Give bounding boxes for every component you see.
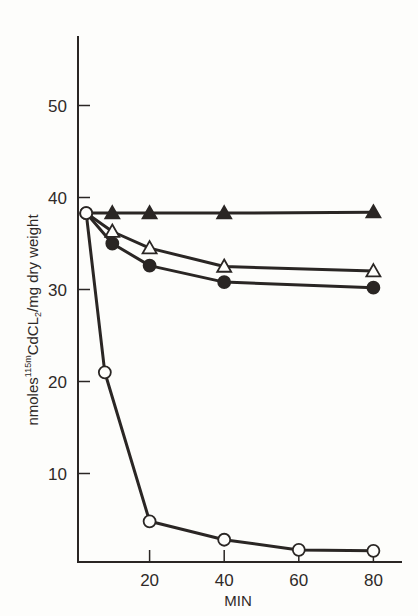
series-line	[86, 212, 373, 213]
y-tick-label: 40	[48, 189, 67, 208]
series-open-circle	[80, 207, 379, 557]
data-point-circle-filled	[144, 260, 156, 272]
start-point-marker	[80, 207, 92, 219]
data-point-circle-open	[367, 545, 379, 557]
x-axis-title: MIN	[224, 592, 252, 609]
y-tick-label: 10	[48, 465, 67, 484]
data-point-circle-filled	[106, 238, 118, 250]
y-axis-title: nmoles115mCdCL2/mg dry weight	[23, 214, 43, 426]
series-group	[80, 205, 380, 557]
y-tick-label: 50	[48, 97, 67, 116]
series-filled-triangle	[86, 205, 380, 218]
x-tick-label: 40	[215, 571, 234, 590]
series-line	[86, 213, 373, 271]
x-tick-label: 20	[140, 571, 159, 590]
axes: 102030405020406080	[48, 36, 402, 590]
x-tick-label: 60	[289, 571, 308, 590]
series-line	[86, 213, 373, 288]
line-chart: 102030405020406080 MIN nmoles115mCdCL2/m…	[0, 0, 418, 616]
series-filled-circle	[86, 213, 379, 294]
data-point-circle-filled	[367, 282, 379, 294]
series-line	[86, 213, 373, 551]
data-point-circle-open	[293, 544, 305, 556]
series-open-triangle	[86, 213, 380, 276]
axis-labels: MIN nmoles115mCdCL2/mg dry weight	[23, 214, 252, 609]
data-point-circle-filled	[218, 276, 230, 288]
data-point-circle-open	[218, 534, 230, 546]
data-point-circle-open	[99, 366, 111, 378]
x-tick-label: 80	[364, 571, 383, 590]
y-tick-label: 20	[48, 373, 67, 392]
data-point-circle-open	[144, 515, 156, 527]
y-tick-label: 30	[48, 281, 67, 300]
